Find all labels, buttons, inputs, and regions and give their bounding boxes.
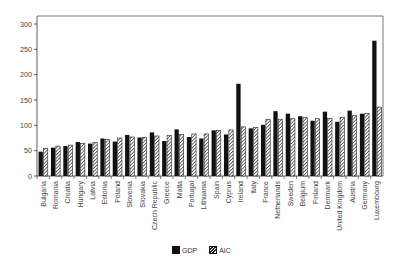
- y-tick-label: 150: [20, 96, 32, 105]
- bar-gdp: [39, 152, 43, 176]
- bar-aic: [328, 118, 332, 176]
- legend-item-aic: AIC: [209, 246, 231, 254]
- x-tick-label: Luxembourg: [373, 181, 381, 220]
- bar-aic: [241, 127, 245, 176]
- bar-gdp: [187, 137, 191, 176]
- bar-gdp: [273, 111, 277, 176]
- x-tick-label: Latvia: [89, 181, 96, 200]
- bar-gdp: [298, 116, 302, 176]
- bar-aic: [93, 143, 97, 176]
- bar-aic: [68, 145, 72, 176]
- bar-gdp: [236, 84, 240, 176]
- x-tick-label: Belgium: [299, 181, 307, 206]
- x-tick-label: Denmark: [324, 181, 331, 210]
- y-tick-label: 250: [20, 45, 32, 54]
- y-tick-label: 50: [24, 146, 32, 155]
- bar-aic: [130, 137, 134, 176]
- bar-gdp: [261, 125, 265, 176]
- bar-chart: 050100150200250300 BulgariaRomaniaCroati…: [0, 0, 394, 245]
- bar-aic: [81, 144, 85, 176]
- x-tick-label: Lithuania: [200, 181, 207, 210]
- bar-gdp: [63, 146, 67, 176]
- x-tick-label: France: [262, 181, 269, 203]
- bar-gdp: [162, 141, 166, 176]
- bar-aic: [266, 119, 270, 176]
- bar-aic: [192, 134, 196, 176]
- bar-gdp: [310, 121, 314, 176]
- bar-gdp: [286, 114, 290, 176]
- x-tick-label: Austria: [349, 181, 356, 203]
- x-tick-label: Germany: [361, 181, 369, 210]
- x-tick-label: Italy: [250, 181, 258, 194]
- legend-label-gdp: GDP: [182, 247, 197, 254]
- x-tick-label: Bulgaria: [40, 181, 48, 207]
- x-tick-label: Greece: [163, 181, 170, 204]
- bar-aic: [315, 119, 319, 176]
- aic-swatch-icon: [209, 246, 217, 254]
- x-tick-label: Slovakia: [139, 181, 146, 208]
- bar-gdp: [137, 137, 141, 176]
- x-tick-label: Hungary: [77, 181, 85, 208]
- bar-gdp: [335, 122, 339, 176]
- x-tick-label: Ireland: [237, 181, 244, 203]
- bar-gdp: [175, 129, 179, 176]
- x-tick-label: United Kingdom: [336, 181, 344, 231]
- bar-aic: [204, 134, 208, 176]
- bar-aic: [340, 117, 344, 176]
- bar-aic: [291, 119, 295, 176]
- bar-gdp: [113, 142, 117, 176]
- bar-gdp: [360, 114, 364, 176]
- x-tick-label: Malta: [176, 181, 183, 198]
- bar-gdp: [224, 134, 228, 176]
- bar-aic: [105, 140, 109, 176]
- bar-aic: [303, 118, 307, 176]
- bar-aic: [118, 138, 122, 176]
- bar-gdp: [76, 142, 80, 176]
- y-tick-label: 200: [20, 70, 32, 79]
- bar-gdp: [100, 139, 104, 176]
- bar-aic: [167, 135, 171, 176]
- bar-aic: [43, 149, 47, 176]
- x-tick-label: Estonia: [101, 181, 108, 204]
- y-tick-label: 0: [28, 172, 32, 181]
- bar-gdp: [51, 148, 55, 176]
- x-tick-label: Slovenia: [126, 181, 133, 208]
- bar-gdp: [323, 112, 327, 176]
- legend-label-aic: AIC: [219, 247, 231, 254]
- bar-aic: [365, 114, 369, 176]
- x-axis-labels: BulgariaRomaniaCroatiaHungaryLatviaEston…: [40, 181, 382, 231]
- bar-gdp: [348, 111, 352, 176]
- y-tick-label: 100: [20, 121, 32, 130]
- bar-gdp: [88, 144, 92, 176]
- bar-aic: [377, 107, 381, 176]
- x-tick-label: Sweden: [287, 181, 294, 206]
- bar-aic: [142, 137, 146, 176]
- bar-aic: [254, 127, 258, 176]
- x-tick-label: Netherlands: [274, 181, 281, 219]
- x-tick-label: Czech Republic: [151, 181, 159, 231]
- bar-gdp: [199, 139, 203, 176]
- chart-legend: GDP AIC: [172, 246, 231, 254]
- legend-item-gdp: GDP: [172, 246, 197, 254]
- x-tick-label: Poland: [114, 181, 121, 203]
- gdp-swatch-icon: [172, 246, 180, 254]
- bar-gdp: [125, 135, 129, 176]
- bar-gdp: [372, 41, 376, 176]
- bar-aic: [352, 116, 356, 176]
- bar-aic: [216, 130, 220, 176]
- chart-bars: [39, 41, 382, 176]
- bar-aic: [278, 119, 282, 176]
- bar-gdp: [150, 132, 154, 176]
- bar-aic: [229, 130, 233, 176]
- x-tick-label: Romania: [52, 181, 59, 209]
- x-tick-label: Spain: [213, 181, 221, 199]
- x-tick-label: Portugal: [188, 181, 196, 208]
- x-tick-label: Cyprus: [225, 181, 233, 204]
- x-tick-label: Croatia: [64, 181, 71, 204]
- bar-gdp: [212, 130, 216, 176]
- x-tick-label: Finland: [312, 181, 319, 204]
- bar-aic: [155, 136, 159, 176]
- bar-aic: [179, 134, 183, 176]
- y-tick-label: 300: [20, 20, 32, 29]
- bar-gdp: [249, 128, 253, 176]
